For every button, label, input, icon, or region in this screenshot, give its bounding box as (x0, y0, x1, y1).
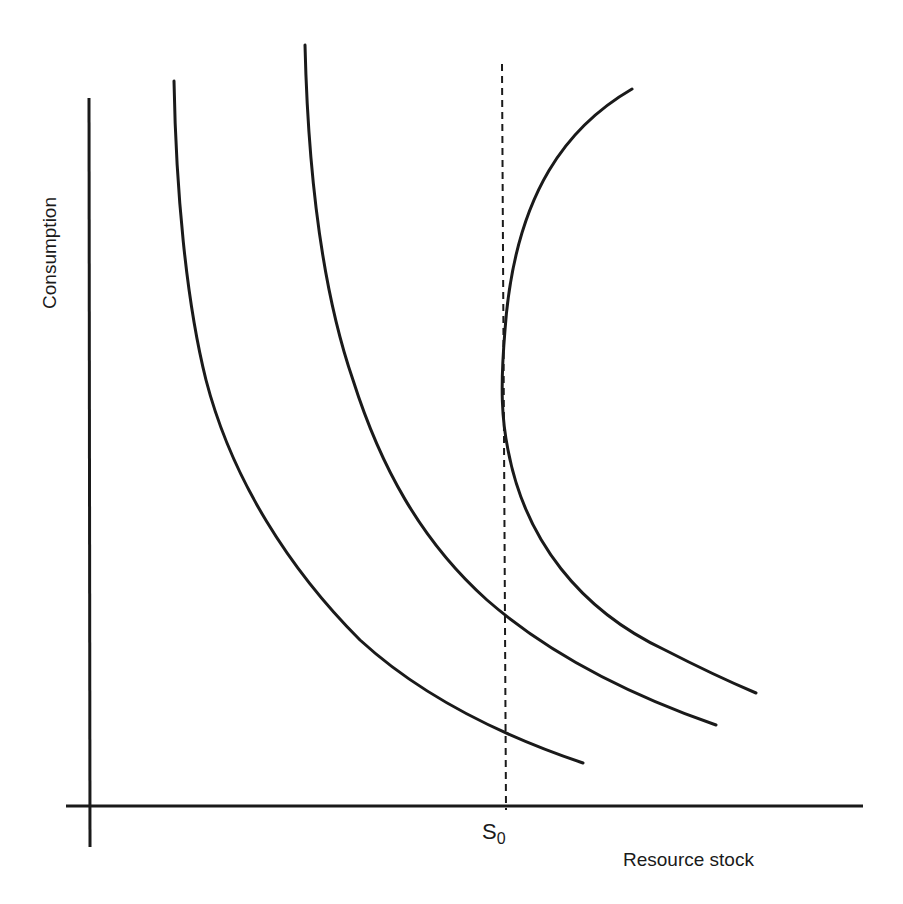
s0-subscript: 0 (497, 830, 506, 847)
phase-diagram: Consumption S0 Resource stock (0, 0, 903, 904)
s0-main: S (482, 819, 497, 844)
y-axis-label: Consumption (39, 197, 60, 309)
curve-3 (502, 89, 756, 693)
y-axis (89, 98, 90, 847)
s0-tick-label: S0 (482, 819, 506, 847)
x-axis-label: Resource stock (623, 849, 754, 870)
curve-1 (174, 81, 583, 763)
curve-2 (305, 45, 716, 725)
